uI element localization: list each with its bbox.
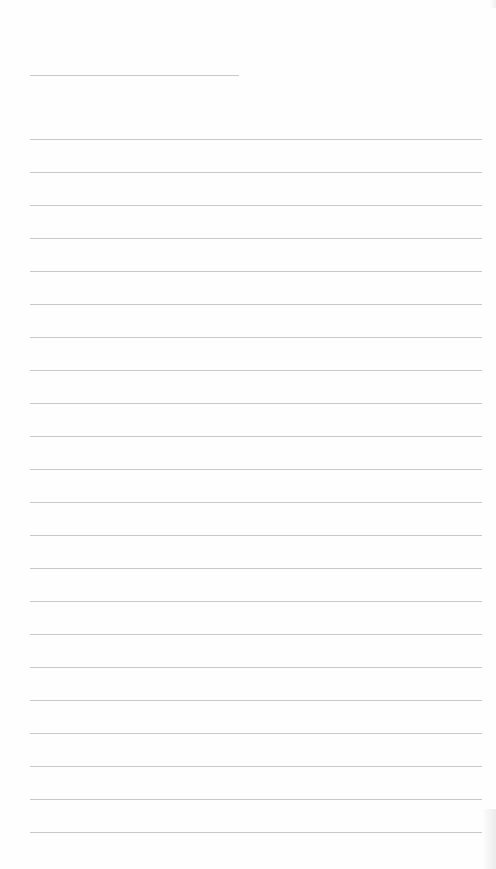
ruled-line — [30, 832, 482, 833]
ruled-line — [30, 205, 482, 206]
page-corner-shadow-top — [490, 0, 496, 8]
ruled-line — [30, 667, 482, 668]
ruled-line — [30, 304, 482, 305]
page-corner-shadow — [482, 809, 496, 869]
ruled-line — [30, 139, 482, 140]
ruled-line — [30, 469, 482, 470]
ruled-line — [30, 634, 482, 635]
ruled-line — [30, 535, 482, 536]
header-rule — [30, 75, 239, 76]
lined-page — [0, 0, 496, 869]
ruled-line — [30, 733, 482, 734]
ruled-line — [30, 271, 482, 272]
ruled-line — [30, 700, 482, 701]
ruled-line — [30, 172, 482, 173]
ruled-line — [30, 370, 482, 371]
ruled-line — [30, 238, 482, 239]
ruled-line — [30, 403, 482, 404]
ruled-line — [30, 436, 482, 437]
ruled-line — [30, 766, 482, 767]
ruled-line — [30, 337, 482, 338]
ruled-line — [30, 799, 482, 800]
ruled-line — [30, 502, 482, 503]
ruled-line — [30, 568, 482, 569]
ruled-line — [30, 601, 482, 602]
